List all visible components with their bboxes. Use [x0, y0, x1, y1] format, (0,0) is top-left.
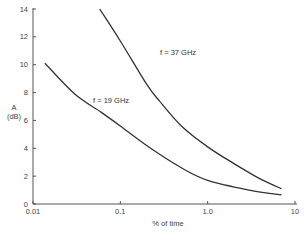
y-ticks: 02468101214 — [20, 5, 36, 209]
y-tick-label: 4 — [24, 144, 28, 153]
x-axis-label: % of time — [152, 219, 183, 228]
y-tick-label: 2 — [24, 172, 28, 181]
x-tick-label: 0.1 — [115, 207, 125, 216]
y-tick-label: 10 — [20, 60, 28, 69]
curves — [45, 9, 282, 195]
attenuation-chart: 02468101214 0.010.11.010 A (dB) % of tim… — [0, 0, 308, 236]
y-tick-label: 8 — [24, 88, 28, 97]
y-tick-label: 12 — [20, 32, 28, 41]
axes — [33, 8, 297, 204]
y-tick-label: 6 — [24, 116, 28, 125]
x-ticks: 0.010.11.010 — [26, 201, 299, 216]
series-line-19ghz — [45, 63, 282, 195]
x-tick-label: 1.0 — [202, 207, 212, 216]
x-tick-label: 10 — [291, 207, 299, 216]
annotation-37ghz: f = 37 GHz — [160, 48, 196, 57]
x-tick-label: 0.01 — [26, 207, 41, 216]
y-axis-label-line1: A — [11, 103, 16, 112]
y-axis-label-line2: (dB) — [7, 112, 22, 121]
y-tick-label: 14 — [20, 5, 28, 14]
annotation-19ghz: f = 19 GHz — [93, 96, 129, 105]
